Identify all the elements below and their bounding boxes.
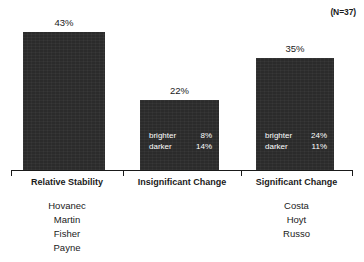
category-label-relative-stability: Relative Stability bbox=[11, 177, 123, 187]
breakdown-value: 14% bbox=[190, 141, 212, 152]
breakdown-key: darker bbox=[265, 141, 288, 152]
list-item: Hoyt bbox=[241, 213, 352, 227]
member-list-significant-change: Costa Hoyt Russo bbox=[241, 199, 352, 241]
category-label-insignificant-change: Insignificant Change bbox=[123, 177, 241, 187]
list-item: Russo bbox=[241, 227, 352, 241]
bar-breakdown-2: brighter 8% darker 14% bbox=[140, 130, 219, 152]
breakdown-value: 8% bbox=[190, 130, 212, 141]
x-axis-tick bbox=[123, 170, 124, 176]
bar-value-label-3: 35% bbox=[256, 43, 334, 54]
bar-value-label-1: 43% bbox=[23, 17, 105, 28]
bar-chart: (N=37) 43% 22% brighter 8% darker 14% 35… bbox=[0, 0, 364, 262]
breakdown-value: 24% bbox=[305, 130, 327, 141]
x-axis-tick bbox=[241, 170, 242, 176]
bar-relative-stability bbox=[23, 32, 105, 170]
x-axis-line bbox=[11, 170, 352, 171]
category-label-significant-change: Significant Change bbox=[241, 177, 352, 187]
breakdown-key: darker bbox=[149, 141, 172, 152]
breakdown-key: brighter bbox=[265, 130, 292, 141]
bar-value-label-2: 22% bbox=[140, 85, 219, 96]
bar-breakdown-3: brighter 24% darker 11% bbox=[256, 130, 334, 152]
breakdown-row: darker 11% bbox=[265, 141, 327, 152]
breakdown-row: darker 14% bbox=[149, 141, 212, 152]
list-item: Fisher bbox=[11, 227, 123, 241]
bar-significant-change: brighter 24% darker 11% bbox=[256, 58, 334, 170]
list-item: Martin bbox=[11, 213, 123, 227]
x-axis-tick bbox=[11, 170, 12, 176]
list-item: Costa bbox=[241, 199, 352, 213]
bar-insignificant-change: brighter 8% darker 14% bbox=[140, 100, 219, 170]
breakdown-row: brighter 8% bbox=[149, 130, 212, 141]
list-item: Payne bbox=[11, 241, 123, 255]
plot-area: 43% 22% brighter 8% darker 14% 35% brigh… bbox=[0, 0, 364, 171]
list-item: Hovanec bbox=[11, 199, 123, 213]
breakdown-key: brighter bbox=[149, 130, 176, 141]
breakdown-row: brighter 24% bbox=[265, 130, 327, 141]
breakdown-value: 11% bbox=[305, 141, 327, 152]
member-list-relative-stability: Hovanec Martin Fisher Payne bbox=[11, 199, 123, 255]
x-axis-tick bbox=[352, 170, 353, 176]
